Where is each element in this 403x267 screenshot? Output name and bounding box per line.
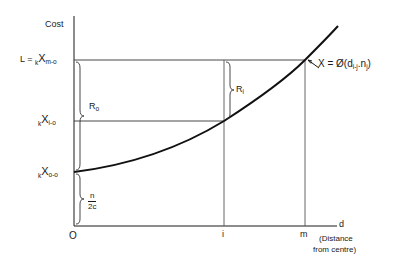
ri-sub: i [243,88,244,95]
annotation-sub2: j [366,63,367,70]
mid-k: k [38,120,41,127]
n-2c-brace [76,174,84,224]
annotation-sub1: i-j [353,63,358,70]
annotation-close: ) [368,58,371,69]
fraction-denominator: 2c [88,202,96,211]
x-axis-note-2: from centre) [313,246,356,254]
r0-sub: o [96,105,100,112]
base-k: k [38,172,41,179]
x-tick-m-label: m [300,230,308,239]
base-sub: o-o [49,171,58,178]
top-sub: m-o [46,58,57,65]
annotation-text: X = Ø(d [318,58,353,69]
origin-label: O [69,231,77,241]
r0-label: Ro [89,102,99,111]
y-level-base-label: kXo-o [38,166,58,177]
cost-curve [74,26,338,172]
x-axis-label: d [339,220,344,229]
fraction-numerator: n [88,192,96,202]
y-axis-label: Cost [45,20,64,29]
base-x: X [41,165,48,177]
x-tick-i-label: i [222,230,224,239]
x-axis-note-1: (Distance [319,235,353,243]
y-level-top-label: L = kXm-o [20,53,57,64]
r0-letter: R [89,101,96,111]
n-over-2c-fraction: n 2c [88,192,96,211]
ri-brace [226,62,234,119]
y-level-mid-label: kXi-o [38,114,56,125]
curve-annotation: X = Ø(di-j.nj) [318,59,371,69]
ri-letter: R [236,84,243,94]
top-x: X [38,52,45,64]
mid-sub: i-o [49,119,56,126]
top-k: k [35,59,38,66]
r0-brace [76,62,84,170]
ri-label: Ri [236,85,244,94]
mid-x: X [41,113,48,125]
top-prefix: L = [20,54,35,64]
annotation-mid: .n [358,58,366,69]
